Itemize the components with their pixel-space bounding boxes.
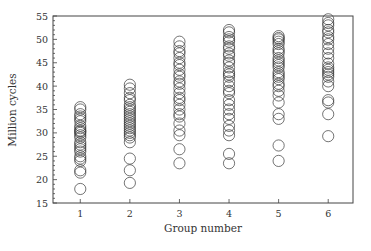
data-point (273, 97, 284, 108)
data-point (174, 125, 185, 136)
scatter-chart: 152025303540455055 123456 Group number M… (0, 0, 371, 251)
data-point (323, 69, 334, 80)
data-points (75, 14, 334, 195)
y-tick-label: 55 (36, 11, 48, 22)
data-point (273, 85, 284, 96)
y-tick-label: 25 (36, 151, 48, 162)
data-point (323, 109, 334, 120)
data-point (174, 41, 185, 52)
x-tick-label: 1 (77, 208, 83, 219)
x-axis: 123456 (77, 199, 331, 219)
data-point (223, 88, 234, 99)
y-tick-label: 50 (36, 34, 48, 45)
x-axis-title: Group number (164, 222, 243, 234)
data-point (323, 131, 334, 142)
y-tick-label: 45 (36, 57, 48, 68)
data-point (174, 144, 185, 155)
data-point (174, 71, 185, 82)
data-point (273, 140, 284, 151)
data-point (174, 64, 185, 75)
data-point (174, 111, 185, 122)
data-point (273, 74, 284, 85)
x-tick-label: 2 (127, 208, 133, 219)
x-tick-label: 3 (176, 208, 182, 219)
data-point (174, 158, 185, 169)
data-point (174, 130, 185, 141)
y-axis-title: Million cycles (6, 73, 18, 146)
data-point (323, 95, 334, 106)
data-point (174, 52, 185, 63)
x-tick-label: 6 (325, 208, 331, 219)
data-point (323, 97, 334, 108)
data-point (174, 76, 185, 87)
data-point (124, 153, 135, 164)
data-point (273, 109, 284, 120)
y-tick-label: 20 (36, 174, 48, 185)
y-tick-label: 15 (36, 198, 48, 209)
data-point (273, 113, 284, 124)
y-axis: 152025303540455055 (36, 11, 57, 209)
data-point (323, 31, 334, 42)
data-point (323, 20, 334, 31)
data-point (124, 177, 135, 188)
x-tick-label: 5 (276, 208, 282, 219)
x-tick-label: 4 (226, 208, 232, 219)
data-point (75, 183, 86, 194)
plot-frame (53, 16, 353, 203)
y-tick-label: 35 (36, 104, 48, 115)
data-point (223, 55, 234, 66)
data-point (75, 167, 86, 178)
data-point (223, 69, 234, 80)
y-tick-label: 40 (36, 81, 48, 92)
y-tick-label: 30 (36, 127, 48, 138)
data-point (323, 64, 334, 75)
data-point (273, 155, 284, 166)
data-point (124, 165, 135, 176)
data-point (223, 125, 234, 136)
data-point (124, 88, 135, 99)
data-point (75, 109, 86, 120)
